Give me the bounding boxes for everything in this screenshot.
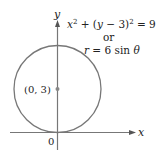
center-point	[56, 87, 60, 91]
polar-graph: x y 0 (0, 3) x2 + (y − 3)2 = 9 or r = 6 …	[0, 0, 158, 159]
x-axis-label: x	[138, 126, 145, 139]
cartesian-equation: x2 + (y − 3)2 = 9	[67, 18, 156, 30]
center-label: (0, 3)	[24, 84, 51, 95]
polar-equation: r = 6 sin θ	[84, 44, 140, 56]
y-axis-label: y	[53, 8, 61, 21]
origin-label: 0	[48, 136, 54, 147]
y-axis-arrow-icon	[55, 20, 60, 27]
x-axis-arrow-icon	[129, 130, 136, 135]
or-connector: or	[103, 31, 115, 43]
